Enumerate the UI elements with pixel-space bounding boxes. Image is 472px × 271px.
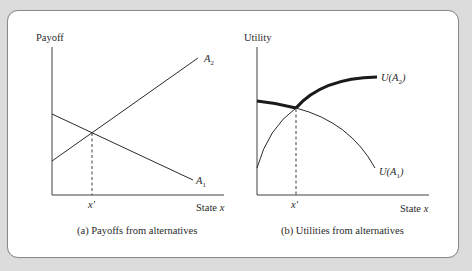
line-a1 — [52, 114, 193, 180]
label-a1: A1 — [195, 175, 206, 189]
figure-svg: Payoff A2 A1 x′ State x (a) Payoffs from… — [0, 0, 472, 271]
curve-ua2-thin — [257, 108, 296, 168]
panel-b-xtick: x′ — [290, 199, 299, 210]
panel-a-xlabel: State x — [196, 202, 225, 213]
panel-a-ylabel: Payoff — [36, 32, 64, 43]
label-a2: A2 — [203, 53, 214, 67]
panel-a-xtick: x′ — [87, 199, 96, 210]
panel-a-caption: (a) Payoffs from alternatives — [77, 225, 197, 237]
panel-a-payoffs: Payoff A2 A1 x′ State x (a) Payoffs from… — [36, 32, 225, 237]
curve-ua1-thick — [257, 101, 296, 108]
label-ua1: U(A1) — [379, 166, 404, 180]
curve-ua2-thick — [296, 77, 377, 108]
label-ua2: U(A2) — [381, 72, 406, 86]
panel-b-utilities: Utility U(A2) U(A1) x′ State x (b) Utili… — [244, 32, 429, 237]
line-a2 — [52, 58, 198, 161]
panel-b-caption: (b) Utilities from alternatives — [281, 225, 404, 237]
panel-b-xlabel: State x — [400, 203, 429, 214]
curve-ua1-thin — [296, 108, 375, 168]
panel-b-ylabel: Utility — [244, 32, 272, 43]
